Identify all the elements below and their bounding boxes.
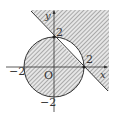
tick-y-pos: 2 (56, 26, 63, 39)
y-axis-label: y (44, 10, 51, 21)
tick-y-neg: −2 (40, 96, 56, 109)
origin-label: O (44, 69, 53, 82)
x-axis-label: x (100, 69, 106, 80)
tick-x-neg: −2 (9, 65, 25, 78)
region-diagram: y x O 2 2 −2 −2 (0, 0, 122, 125)
tick-x-pos: 2 (86, 53, 93, 66)
